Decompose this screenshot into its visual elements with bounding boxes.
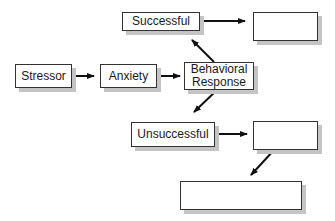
node-stressor: Stressor <box>15 64 72 88</box>
node-label-line2: Response <box>192 76 246 89</box>
node-unsuccessful-outcome-empty <box>253 121 318 150</box>
node-label: Anxiety <box>109 70 148 83</box>
node-final-outcome-empty <box>180 181 302 210</box>
node-label: Successful <box>132 15 190 28</box>
arrow-outcome-to-final <box>251 150 274 175</box>
node-anxiety: Anxiety <box>100 64 157 88</box>
node-successful-outcome-empty <box>253 12 318 41</box>
arrow-behavioral-to-unsuccessful <box>194 90 217 112</box>
node-unsuccessful: Unsuccessful <box>131 122 215 147</box>
node-label: Stressor <box>21 70 66 83</box>
node-label: Unsuccessful <box>137 128 208 141</box>
arrow-behavioral-to-successful <box>192 40 214 62</box>
node-successful: Successful <box>122 12 200 31</box>
node-behavioral-response: Behavioral Response <box>184 62 254 90</box>
